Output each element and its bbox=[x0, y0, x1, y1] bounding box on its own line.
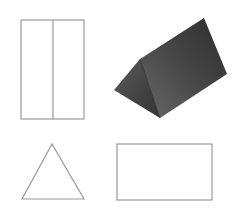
top-view bbox=[117, 144, 212, 200]
front-view bbox=[21, 20, 84, 119]
prism-three-views-diagram bbox=[0, 0, 232, 213]
side-view bbox=[22, 144, 84, 199]
top-view-rectangle bbox=[117, 144, 212, 200]
side-view-triangle bbox=[22, 144, 84, 199]
prism-3d bbox=[114, 18, 227, 118]
